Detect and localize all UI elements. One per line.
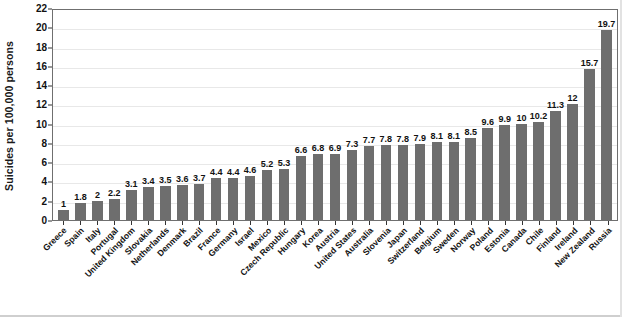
- bar-slot: 3.6: [174, 10, 191, 220]
- bar-slot: 10: [513, 10, 530, 220]
- bar: 6.6: [296, 156, 307, 220]
- bar-slot: 3.7: [191, 10, 208, 220]
- bar-value-label: 8.5: [464, 128, 477, 137]
- y-tick-label: 10: [36, 120, 47, 130]
- bar: 6.9: [330, 154, 341, 220]
- bar-value-label: 10: [517, 114, 527, 123]
- bar: 19.7: [601, 30, 612, 220]
- bar-slot: 2.2: [106, 10, 123, 220]
- bar: 8.1: [432, 142, 443, 220]
- bar-slot: 7.7: [360, 10, 377, 220]
- bar-value-label: 19.7: [598, 20, 616, 29]
- bar-slot: 6.9: [327, 10, 344, 220]
- bar: 7.3: [347, 150, 358, 220]
- bar-series: 11.822.23.13.43.53.63.74.44.44.65.25.36.…: [53, 10, 617, 220]
- bar-slot: 3.1: [123, 10, 140, 220]
- x-label-slot: Russia: [599, 225, 616, 317]
- bar-value-label: 3.1: [125, 180, 138, 189]
- suicide-rate-bar-chart: Suicides per 100,000 persons 02468101214…: [0, 0, 622, 324]
- bar-value-label: 3.5: [159, 176, 172, 185]
- bar-slot: 15.7: [581, 10, 598, 220]
- y-tick-label: 12: [36, 100, 47, 110]
- bar-value-label: 8.1: [447, 132, 460, 141]
- bar-value-label: 9.6: [481, 118, 494, 127]
- bar-slot: 7.8: [377, 10, 394, 220]
- bar-value-label: 6.9: [329, 144, 342, 153]
- bar: 7.9: [415, 144, 426, 220]
- bar-value-label: 7.7: [363, 136, 376, 145]
- bar-slot: 9.9: [496, 10, 513, 220]
- bar: 3.7: [194, 184, 205, 220]
- plot-area: 11.822.23.13.43.53.63.74.44.44.65.25.36.…: [52, 9, 618, 221]
- bar-value-label: 1.8: [74, 193, 87, 202]
- bar-slot: 1.8: [72, 10, 89, 220]
- bar-slot: 3.5: [157, 10, 174, 220]
- bar-value-label: 6.6: [295, 146, 308, 155]
- bar-value-label: 12: [568, 94, 578, 103]
- bar: 2.2: [109, 199, 120, 220]
- y-tick-label: 20: [36, 23, 47, 33]
- bar-slot: 4.6: [242, 10, 259, 220]
- bar: 4.4: [211, 178, 222, 220]
- bar: 6.8: [313, 154, 324, 220]
- bar-value-label: 7.9: [414, 134, 427, 143]
- bar-value-label: 8.1: [431, 132, 444, 141]
- x-axis-category-labels: GreeceSpainItalyPortugalUnited KingdomSl…: [52, 225, 618, 317]
- bar-value-label: 5.2: [261, 160, 274, 169]
- bar: 10: [516, 124, 527, 220]
- bar-value-label: 4.6: [244, 166, 257, 175]
- bar-value-label: 5.3: [278, 159, 291, 168]
- bar: 8.5: [465, 138, 476, 220]
- y-tick-label: 22: [36, 4, 47, 14]
- bar: 9.6: [482, 128, 493, 221]
- y-tick-label: 2: [41, 197, 47, 207]
- bar-value-label: 10.2: [530, 112, 548, 121]
- bar: 3.5: [160, 186, 171, 220]
- bar-slot: 9.6: [479, 10, 496, 220]
- bar: 12: [567, 104, 578, 220]
- bar-value-label: 9.9: [498, 115, 511, 124]
- y-tick-label: 16: [36, 62, 47, 72]
- bar: 3.6: [177, 185, 188, 220]
- bar: 7.8: [381, 145, 392, 220]
- bar-value-label: 3.4: [142, 177, 155, 186]
- y-tick-label: 18: [36, 43, 47, 53]
- bar-slot: 7.8: [394, 10, 411, 220]
- bar: 5.2: [262, 170, 273, 220]
- y-tick-label: 0: [41, 216, 47, 226]
- y-tick-label: 14: [36, 81, 47, 91]
- bar-slot: 19.7: [598, 10, 615, 220]
- bar-value-label: 7.8: [380, 135, 393, 144]
- bar-slot: 6.6: [293, 10, 310, 220]
- bar-value-label: 2.2: [108, 189, 121, 198]
- y-tick-label: 4: [41, 177, 47, 187]
- bar-value-label: 2: [95, 191, 100, 200]
- bar-value-label: 7.3: [346, 140, 359, 149]
- bar-slot: 2: [89, 10, 106, 220]
- bar: 5.3: [279, 169, 290, 220]
- bar: 4.4: [228, 178, 239, 220]
- bar: 1.8: [75, 203, 86, 220]
- bar: 8.1: [449, 142, 460, 220]
- bar-value-label: 11.3: [547, 101, 564, 110]
- bar-slot: 1: [55, 10, 72, 220]
- bar-slot: 8.1: [428, 10, 445, 220]
- bar-slot: 8.5: [462, 10, 479, 220]
- y-axis-tick-labels: 0246810121416182022: [18, 9, 52, 221]
- y-axis-title: Suicides per 100,000 persons: [0, 0, 18, 232]
- bar: 11.3: [550, 111, 561, 220]
- bar: 7.8: [398, 145, 409, 220]
- bar: 3.4: [143, 187, 154, 220]
- bar: 3.1: [126, 190, 137, 220]
- bar-value-label: 6.8: [312, 144, 325, 153]
- bar: 9.9: [499, 125, 510, 220]
- bar: 10.2: [533, 122, 544, 220]
- bar: 15.7: [584, 69, 595, 220]
- figure-bottom-rule: [0, 315, 622, 317]
- bar-value-label: 4.4: [227, 168, 240, 177]
- bar: 1: [58, 210, 69, 220]
- bar-slot: 8.1: [445, 10, 462, 220]
- bar-slot: 7.3: [343, 10, 360, 220]
- bar-value-label: 15.7: [581, 59, 599, 68]
- bar-slot: 5.3: [276, 10, 293, 220]
